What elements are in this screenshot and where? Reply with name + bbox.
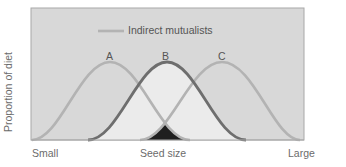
peak-label-a: A — [106, 50, 113, 62]
peak-label-c: C — [218, 50, 226, 62]
y-axis-label: Proportion of diet — [2, 32, 16, 152]
x-axis-label: Seed size — [140, 147, 186, 159]
peak-label-b: B — [162, 50, 169, 62]
x-tick-large: Large — [288, 147, 315, 159]
x-tick-small: Small — [32, 147, 58, 159]
legend-label: Indirect mutualists — [128, 24, 213, 36]
